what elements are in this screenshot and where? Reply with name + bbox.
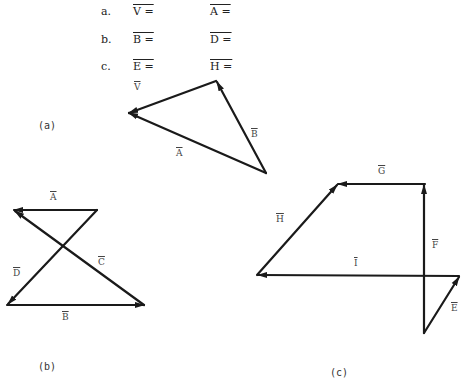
caption-c: (c) — [330, 367, 348, 378]
vector-b-D — [8, 210, 97, 304]
label-c-F: F — [432, 240, 438, 250]
vector-c-I — [258, 275, 459, 276]
label-b-D: D — [13, 268, 20, 278]
vector-a-B — [217, 82, 266, 173]
label-c-E: E — [451, 303, 458, 313]
vector-b-C — [15, 211, 144, 305]
label-a-A: A — [176, 148, 183, 158]
caption-a: (a) — [38, 120, 56, 131]
label-b-B: B — [62, 312, 69, 322]
label-c-G: G — [378, 166, 385, 176]
vector-a-A — [129, 113, 266, 173]
caption-b: (b) — [38, 361, 56, 372]
label-a-V: V — [134, 82, 141, 92]
vector-diagrams — [0, 0, 466, 389]
label-c-H: H — [276, 214, 284, 224]
vector-c-H — [257, 185, 337, 275]
label-b-A: A — [50, 192, 57, 202]
vector-a-V — [129, 81, 216, 113]
label-c-I: I — [354, 258, 358, 268]
label-b-C: C — [98, 257, 105, 267]
label-a-B: B — [251, 129, 258, 139]
